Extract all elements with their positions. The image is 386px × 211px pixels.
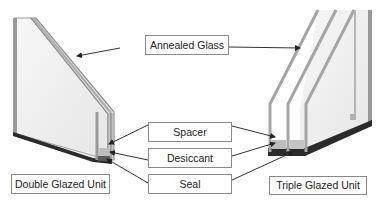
label-double-glazed-unit: Double Glazed Unit	[11, 174, 110, 194]
triple-desiccant	[272, 140, 286, 149]
arrow-seal-left	[107, 159, 148, 183]
label-annealed-glass: Annealed Glass	[145, 35, 229, 55]
label-seal: Seal	[148, 174, 232, 194]
label-desiccant: Desiccant	[148, 148, 232, 168]
label-triple-glazed-unit: Triple Glazed Unit	[269, 176, 367, 195]
double-glazed-unit-illustration	[13, 18, 114, 164]
double-left-edge	[13, 18, 17, 134]
arrow-desiccant-left	[110, 152, 148, 160]
triple-glazed-unit-illustration	[268, 10, 372, 156]
double-desiccant	[98, 148, 110, 157]
arrow-spacer-left	[109, 125, 148, 144]
triple-right-edge	[368, 10, 372, 122]
arrow-annealed-right	[228, 47, 300, 48]
arrow-annealed-left	[77, 48, 120, 56]
label-spacer: Spacer	[148, 122, 232, 142]
